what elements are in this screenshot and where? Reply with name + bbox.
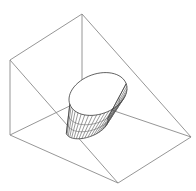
wireframe-figure: [0, 0, 196, 191]
wedge-edge-bottom-right: [118, 137, 191, 183]
wedge-edge-top-left_top: [10, 14, 82, 60]
truncated-cone-wireframe: [66, 73, 127, 139]
wedge-edge-left_bottom-bottom: [10, 135, 118, 183]
